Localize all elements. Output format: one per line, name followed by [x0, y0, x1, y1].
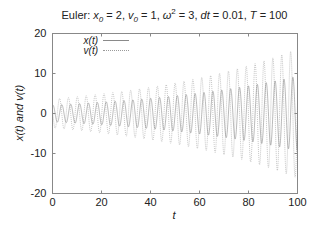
legend-item-x: x(t)	[78, 35, 129, 45]
series-layer	[53, 52, 298, 178]
y-axis-label: x(t) and v(t)	[13, 85, 25, 141]
x-axis-label: t	[172, 209, 175, 221]
legend-label-v: v(t)	[78, 45, 98, 56]
y-tick-label: 0	[40, 107, 46, 119]
x-tick-label: 20	[95, 196, 107, 208]
legend-swatch-x	[103, 40, 129, 41]
legend-swatch-v	[103, 50, 129, 51]
x-tick-label: 40	[144, 196, 156, 208]
legend-item-v: v(t)	[78, 45, 129, 55]
chart: Euler: x0 = 2, v0 = 1, ω2 = 3, dt = 0.01…	[0, 0, 319, 230]
y-tick-label: 20	[34, 27, 46, 39]
x-tick-label: 60	[193, 196, 205, 208]
x-tick-label: 0	[49, 196, 55, 208]
x-tick-label: 100	[288, 196, 306, 208]
y-tick-label: -10	[31, 147, 47, 159]
x-tick-label: 80	[242, 196, 254, 208]
legend: x(t) v(t)	[78, 35, 129, 55]
plot-area	[0, 0, 319, 230]
y-tick-label: 10	[34, 67, 46, 79]
y-tick-label: -20	[31, 187, 47, 199]
